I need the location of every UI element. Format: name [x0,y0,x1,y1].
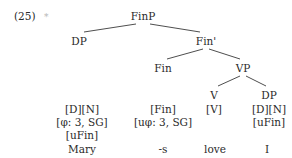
word-i: I [265,143,269,155]
edge-finp-finbar [150,24,200,32]
word-mary: Mary [68,143,96,155]
edge-finbar-vp [209,49,240,59]
feature-love-v: [V] [206,103,222,115]
edge-finp-dp [84,24,136,32]
node-fin-bar: Fin' [196,35,216,47]
node-dp-object: DP [261,89,276,101]
feature-mary-phi: [φ: 3, SG] [56,116,107,128]
tree-edges [0,0,292,158]
feature-i-ufin: [uFin] [253,116,285,128]
node-vp: VP [236,62,251,74]
word-s: -s [159,143,168,155]
node-finp: FinP [131,10,155,22]
edge-finbar-fin [167,49,203,59]
edge-vp-dp [246,76,266,86]
feature-i-dn: [D][N] [252,103,286,115]
node-v: V [210,89,218,101]
edge-vp-v [218,76,240,86]
word-love: love [204,143,226,155]
feature-mary-ufin: [uFin] [66,129,98,141]
node-fin: Fin [154,62,171,74]
feature-s-uphi: [uφ: 3, SG] [134,116,192,128]
feature-s-fin: [Fin] [150,103,176,115]
node-dp-subject: DP [71,35,86,47]
ungrammatical-marker: * [44,11,49,23]
example-number: (25) [14,10,36,22]
feature-mary-dn: [D][N] [65,103,99,115]
